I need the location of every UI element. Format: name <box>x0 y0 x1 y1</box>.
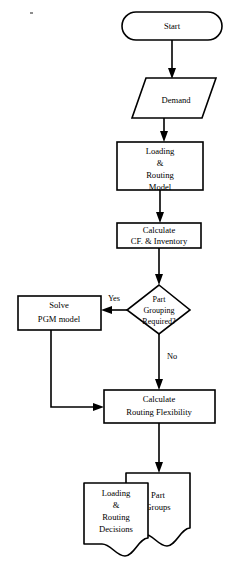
node-calculate-routing-flexibility[interactable]: Calculate Routing Flexibility <box>104 390 215 423</box>
connector-calculate-cf-to-decision <box>155 248 163 285</box>
connector-start-to-demand <box>168 40 176 79</box>
loading-routing-decisions-line3: Routing <box>102 512 130 522</box>
loading-routing-decisions-line4: Decisions <box>99 524 134 534</box>
solve-pgm-model-line2: PGM model <box>38 314 81 324</box>
arrowhead-icon <box>155 379 163 390</box>
calculate-routing-flexibility-line1: Calculate <box>143 394 176 404</box>
calculate-routing-flexibility-line2: Routing Flexibility <box>126 407 192 417</box>
connector-demand-to-loading-model <box>160 118 168 142</box>
node-part-grouping-decision[interactable]: Part Grouping Required? <box>127 285 190 334</box>
node-solve-pgm-model[interactable]: Solve PGM model <box>18 296 101 330</box>
demand-label: Demand <box>161 95 191 105</box>
loading-routing-model-line3: Routing <box>146 170 174 180</box>
solve-pgm-model-line1: Solve <box>49 300 69 310</box>
arrowhead-icon <box>101 306 112 314</box>
arrowhead-icon <box>155 462 163 473</box>
node-demand[interactable]: Demand <box>132 78 216 118</box>
node-calculate-cf-inventory[interactable]: Calculate CF. & Inventory <box>117 223 201 248</box>
scan-artifact-speck <box>30 12 33 14</box>
node-loading-routing-model[interactable]: Loading & Routing Model <box>117 142 203 192</box>
loading-routing-decisions-line1: Loading <box>102 488 131 498</box>
arrowhead-icon <box>155 274 163 285</box>
connector-routing-flexibility-to-documents <box>155 423 163 473</box>
loading-routing-model-line2: & <box>157 158 164 168</box>
loading-routing-decisions-line2: & <box>113 500 120 510</box>
start-label: Start <box>164 21 181 31</box>
calculate-cf-inventory-line2: CF. & Inventory <box>131 236 188 246</box>
part-grouping-decision-line1: Part <box>152 295 166 304</box>
flowchart-diagram: Start Demand Loading & Routing Model Cal… <box>0 0 234 572</box>
part-groups-line1: Part <box>151 490 165 500</box>
flowchart-canvas: Start Demand Loading & Routing Model Cal… <box>0 0 234 572</box>
loading-routing-model-line1: Loading <box>146 146 175 156</box>
connector-decision-yes-to-solve-pgm <box>101 306 127 314</box>
calculate-cf-inventory-line1: Calculate <box>143 225 176 235</box>
loading-routing-model-line4: Model <box>149 182 172 192</box>
edge-label-yes: Yes <box>108 294 120 303</box>
part-groups-line2: Groups <box>145 502 171 512</box>
part-grouping-decision-line2: Grouping <box>143 306 174 315</box>
edge-label-no: No <box>167 352 177 361</box>
node-loading-routing-decisions-document[interactable]: Loading & Routing Decisions <box>84 483 148 556</box>
connector-loading-model-to-calculate-cf <box>156 190 164 223</box>
arrowhead-icon <box>156 212 164 223</box>
connector-solve-pgm-to-routing-flexibility <box>51 330 104 411</box>
arrowhead-icon <box>93 403 104 411</box>
part-grouping-decision-line3: Required? <box>142 317 176 326</box>
node-start[interactable]: Start <box>122 12 222 40</box>
connector-decision-no-to-routing-flexibility <box>155 334 163 390</box>
arrowhead-icon <box>160 131 168 142</box>
